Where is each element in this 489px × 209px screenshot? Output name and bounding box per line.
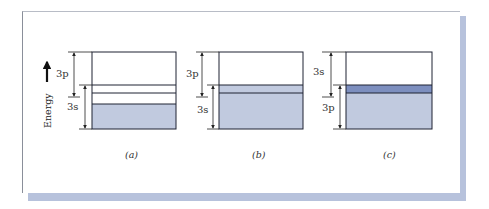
- filled-region: [219, 85, 303, 129]
- panel-c: 3s 3p (c): [313, 52, 432, 160]
- panel-caption: (a): [125, 149, 138, 160]
- overlap-region: [346, 85, 432, 93]
- upper-band-label: 3p: [56, 68, 69, 79]
- lower-band-label: 3s: [197, 104, 209, 115]
- energy-band-diagram: Energy 3p 3s (a) 3p 3s (b): [0, 0, 489, 209]
- lower-band-label: 3s: [67, 101, 79, 112]
- panel-b: 3p 3s (b): [186, 52, 303, 160]
- filled-region: [92, 104, 176, 129]
- energy-axis-label: Energy: [42, 93, 53, 128]
- upper-band-label: 3s: [313, 66, 325, 77]
- upper-band-label: 3p: [186, 68, 199, 79]
- filled-region: [346, 93, 432, 129]
- panel-a: 3p 3s (a): [56, 52, 176, 160]
- panel-caption: (b): [252, 149, 266, 160]
- panel-caption: (c): [383, 149, 396, 160]
- energy-axis: Energy: [42, 62, 53, 128]
- lower-band-label: 3p: [322, 102, 335, 113]
